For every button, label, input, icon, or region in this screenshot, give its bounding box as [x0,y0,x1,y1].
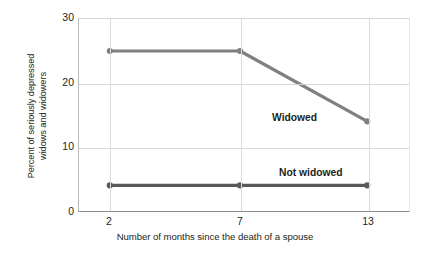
x-axis-tick-label: 13 [348,215,388,227]
y-axis-tick-label: 0 [48,206,74,217]
series-line [110,51,367,121]
series-layer [79,19,409,211]
gridline-horizontal [79,84,409,85]
gridline-vertical [241,19,242,211]
x-axis-tick-label: 2 [89,215,129,227]
gridline-vertical [369,19,370,211]
x-axis-title: Number of months since the death of a sp… [0,231,430,242]
plot-area: Widowed Not widowed [78,18,410,212]
x-axis-tick-label: 7 [220,215,260,227]
gridline-vertical [110,19,111,211]
y-axis-tick-label: 20 [48,77,74,88]
y-axis-tick-label: 10 [48,141,74,152]
y-axis-title-line-1: Percent of seriously depressed [25,16,37,216]
y-axis-tick-label: 30 [48,12,74,23]
y-axis-tick-labels: 0102030 [46,0,74,253]
line-chart: Percent of seriously depressed widows an… [0,0,430,253]
series-label-widowed: Widowed [272,112,317,123]
gridline-horizontal [79,148,409,149]
series-label-not-widowed: Not widowed [279,167,343,178]
